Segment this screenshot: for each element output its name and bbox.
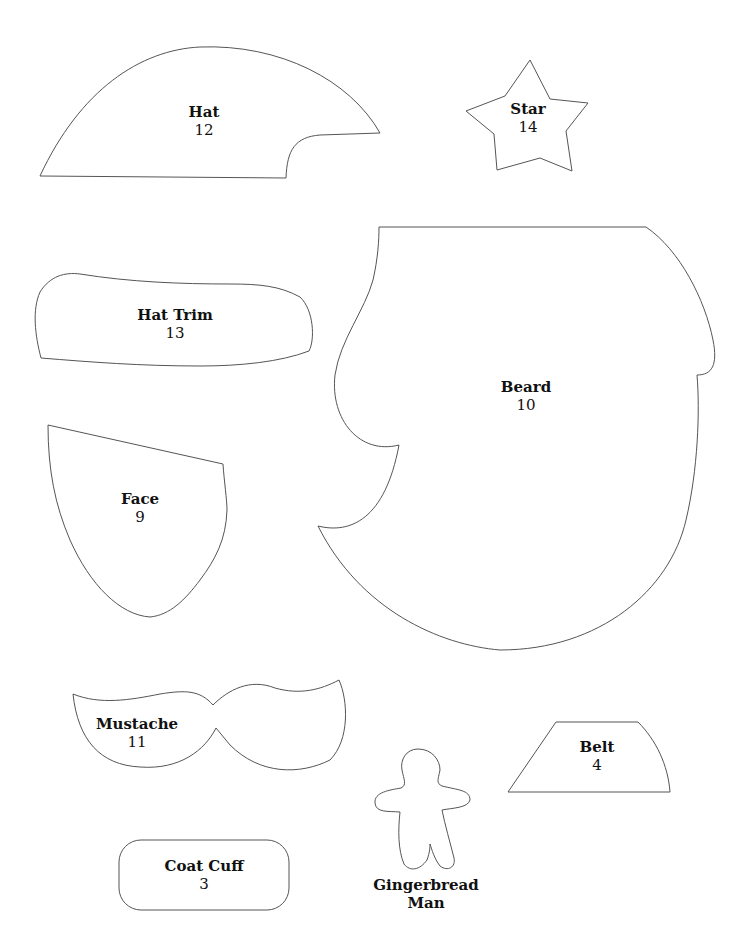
hat-trim-name: Hat Trim bbox=[137, 306, 213, 324]
hat-label: Hat 12 bbox=[189, 103, 220, 139]
face-name: Face bbox=[121, 490, 159, 508]
pattern-sheet bbox=[0, 0, 754, 952]
mustache-number: 11 bbox=[96, 733, 178, 751]
gingerbread-man-name-line1: Gingerbread bbox=[373, 876, 479, 894]
face-number: 9 bbox=[121, 508, 159, 526]
beard-outline bbox=[318, 227, 715, 650]
coat-cuff-label: Coat Cuff 3 bbox=[165, 857, 244, 893]
belt-label: Belt 4 bbox=[580, 738, 615, 774]
mustache-label: Mustache 11 bbox=[96, 715, 178, 751]
beard-label: Beard 10 bbox=[501, 378, 551, 414]
hat-name: Hat bbox=[189, 103, 220, 121]
gingerbread-man-label: Gingerbread Man bbox=[373, 876, 479, 912]
beard-name: Beard bbox=[501, 378, 551, 396]
hat-trim-number: 13 bbox=[137, 324, 213, 342]
mustache-name: Mustache bbox=[96, 715, 178, 733]
star-number: 14 bbox=[510, 118, 545, 136]
star-label: Star 14 bbox=[510, 100, 545, 136]
belt-name: Belt bbox=[580, 738, 615, 756]
star-name: Star bbox=[510, 100, 545, 118]
face-label: Face 9 bbox=[121, 490, 159, 526]
beard-number: 10 bbox=[501, 396, 551, 414]
gingerbread-man-name-line2: Man bbox=[373, 894, 479, 912]
hat-trim-label: Hat Trim 13 bbox=[137, 306, 213, 342]
belt-number: 4 bbox=[580, 756, 615, 774]
gingerbread-man-outline bbox=[375, 749, 470, 869]
coat-cuff-number: 3 bbox=[165, 875, 244, 893]
coat-cuff-name: Coat Cuff bbox=[165, 857, 244, 875]
hat-number: 12 bbox=[189, 121, 220, 139]
